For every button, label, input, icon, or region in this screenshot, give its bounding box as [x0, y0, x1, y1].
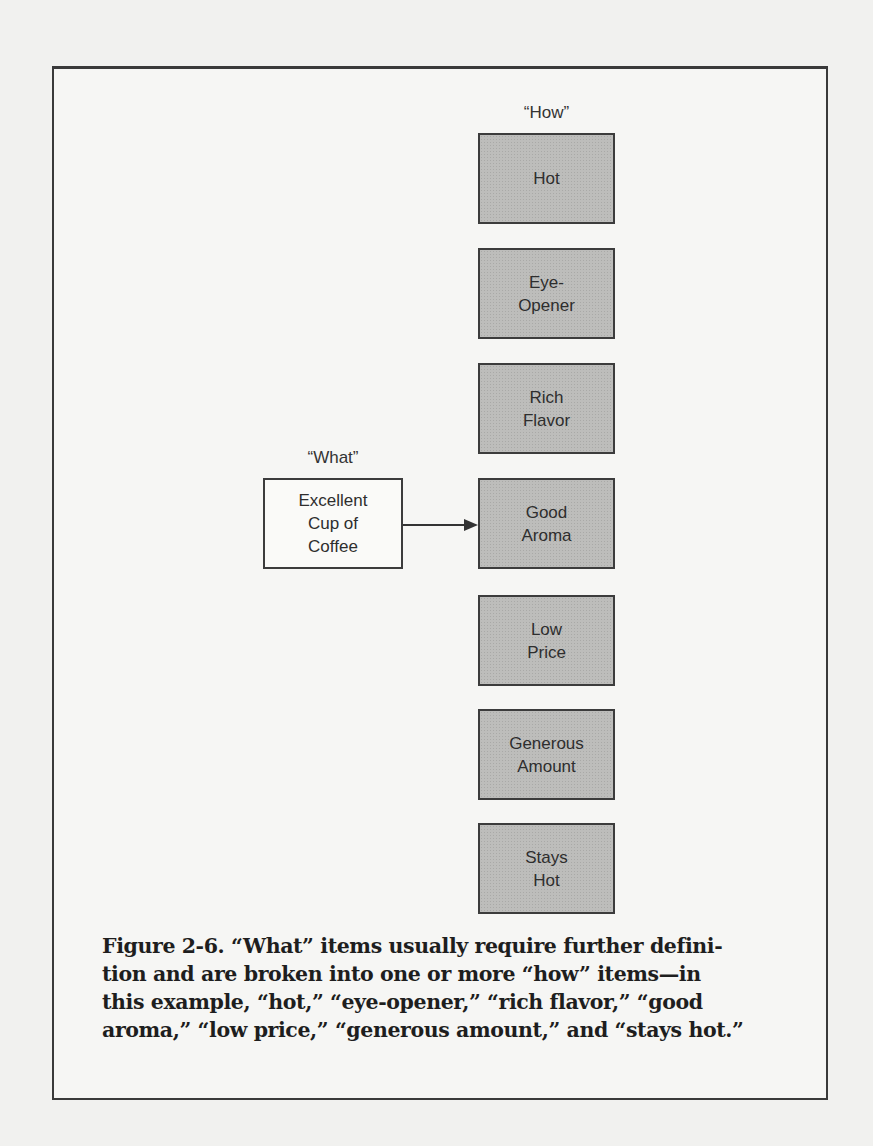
arrow-head-icon — [464, 519, 478, 531]
how-box-stays-hot: Stays Hot — [478, 823, 615, 914]
how-box-generous-amount: Generous Amount — [478, 709, 615, 800]
arrow-connector — [403, 524, 465, 526]
figure-caption: Figure 2-6. “What” items usually require… — [102, 932, 802, 1044]
how-box-good-aroma: Good Aroma — [478, 478, 615, 569]
caption-line: tion and are broken into one or more “ho… — [102, 960, 802, 988]
caption-line: this example, “hot,” “eye-opener,” “rich… — [102, 988, 802, 1016]
how-column-label: “How” — [478, 103, 615, 123]
caption-line: Figure 2-6. “What” items usually require… — [102, 932, 802, 960]
how-box-hot: Hot — [478, 133, 615, 224]
how-box-rich-flavor: Rich Flavor — [478, 363, 615, 454]
what-box-excellent-cup-of-coffee: Excellent Cup of Coffee — [263, 478, 403, 569]
how-box-eye-opener: Eye- Opener — [478, 248, 615, 339]
what-column-label: “What” — [263, 448, 403, 468]
caption-line: aroma,” “low price,” “generous amount,” … — [102, 1016, 802, 1044]
how-box-low-price: Low Price — [478, 595, 615, 686]
